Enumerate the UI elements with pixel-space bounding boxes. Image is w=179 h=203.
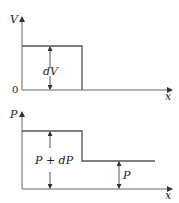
- origin-label: 0: [12, 84, 18, 95]
- p-label: P: [122, 169, 131, 182]
- diagram-canvas: V 0 dV x P P + dP P x: [0, 0, 179, 203]
- dv-label: dV: [43, 65, 59, 78]
- top-diagram: V 0 dV x: [10, 13, 172, 103]
- bottom-diagram: P P + dP P x: [9, 108, 172, 202]
- p-axis-label: P: [9, 108, 18, 121]
- x-axis-label-top: x: [165, 90, 172, 103]
- v-axis-label: V: [10, 13, 19, 26]
- x-axis-label-bottom: x: [165, 189, 172, 202]
- p-plus-dp-label: P + dP: [34, 154, 74, 167]
